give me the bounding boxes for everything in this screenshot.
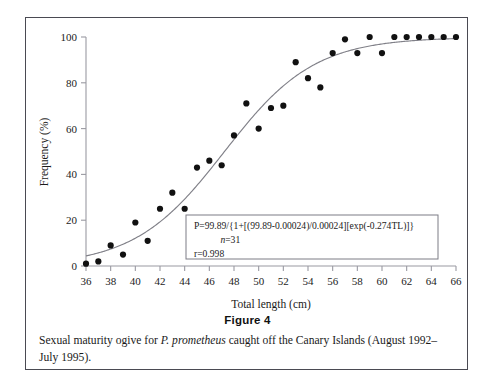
data-point: [145, 238, 151, 244]
data-point: [206, 158, 212, 164]
data-point: [83, 261, 89, 267]
ogive-scatter-chart: 020406080100 363840424446485052545658606…: [26, 18, 469, 318]
plot-area: 020406080100 363840424446485052545658606…: [26, 18, 469, 318]
x-tick-label: 46: [204, 275, 216, 287]
equation-line: P=99.89/{1+[(99.89-0.00024)/0.00024][exp…: [194, 220, 414, 232]
figure-caption-block: Figure 4 Sexual maturity ogive for P. pr…: [26, 314, 469, 367]
x-tick-label: 56: [327, 275, 339, 287]
x-tick-label: 48: [229, 275, 241, 287]
x-tick-label: 36: [81, 275, 93, 287]
data-point: [243, 100, 249, 106]
y-axis-ticks: [81, 37, 86, 266]
data-point: [120, 251, 126, 257]
x-tick-label: 50: [253, 275, 265, 287]
data-point: [305, 75, 311, 81]
x-tick-label: 54: [303, 275, 315, 287]
data-point: [354, 50, 360, 56]
y-tick-label: 0: [72, 260, 78, 272]
caption-species-name: P. prometheus: [161, 334, 226, 347]
y-axis-tick-labels: 020406080100: [61, 31, 78, 272]
x-tick-label: 62: [401, 275, 412, 287]
figure-frame: 020406080100 363840424446485052545658606…: [25, 17, 468, 370]
data-point: [219, 162, 225, 168]
data-point: [416, 34, 422, 40]
x-tick-label: 52: [278, 275, 289, 287]
x-tick-label: 42: [155, 275, 166, 287]
data-point: [317, 84, 323, 90]
x-tick-label: 64: [426, 275, 438, 287]
x-axis-title: Total length (cm): [231, 298, 311, 311]
x-tick-label: 44: [179, 275, 191, 287]
data-point: [391, 34, 397, 40]
x-tick-label: 60: [377, 275, 389, 287]
data-point: [108, 242, 114, 248]
x-axis-tick-labels: 36384042444648505254565860626466: [81, 275, 463, 287]
data-point: [404, 34, 410, 40]
equation-annotation-box: P=99.89/{1+[(99.89-0.00024)/0.00024][exp…: [186, 215, 438, 259]
x-axis-ticks: [86, 266, 456, 271]
sample-size-value: =31: [225, 234, 240, 245]
y-tick-label: 20: [66, 214, 78, 226]
correlation-line: r=0.998: [194, 248, 224, 259]
data-point: [169, 190, 175, 196]
data-point: [428, 34, 434, 40]
y-tick-label: 100: [61, 31, 78, 43]
data-point: [95, 258, 101, 264]
data-point: [268, 105, 274, 111]
x-tick-label: 40: [130, 275, 142, 287]
data-point: [256, 126, 262, 132]
data-point: [280, 103, 286, 109]
y-tick-label: 60: [66, 123, 78, 135]
data-point: [231, 132, 237, 138]
x-tick-label: 66: [451, 275, 463, 287]
data-point: [367, 34, 373, 40]
caption-prefix: Sexual maturity ogive for: [39, 334, 161, 347]
sample-size-line: n=31: [194, 234, 262, 245]
data-point: [157, 206, 163, 212]
data-point: [441, 34, 447, 40]
x-tick-label: 38: [105, 275, 117, 287]
data-point: [330, 50, 336, 56]
data-point: [132, 219, 138, 225]
x-tick-label: 58: [352, 275, 364, 287]
data-point: [194, 164, 200, 170]
data-point: [453, 34, 459, 40]
y-tick-label: 80: [66, 77, 78, 89]
data-point: [379, 50, 385, 56]
figure-number-label: Figure 4: [26, 314, 469, 326]
figure-caption-text: Sexual maturity ogive for P. prometheus …: [26, 333, 469, 367]
data-point: [342, 36, 348, 42]
y-axis-title: Frequency (%): [38, 118, 51, 187]
data-point: [182, 206, 188, 212]
y-tick-label: 40: [66, 168, 78, 180]
data-point: [293, 59, 299, 65]
